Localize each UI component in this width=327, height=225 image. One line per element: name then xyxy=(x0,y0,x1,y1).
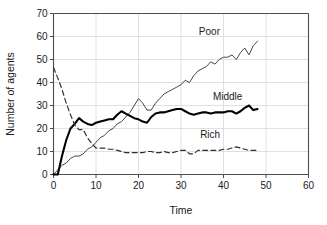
series-label-rich: Rich xyxy=(200,129,220,140)
x-tick-label: 50 xyxy=(260,180,272,191)
x-tick-label: 0 xyxy=(51,180,57,191)
y-tick-label: 10 xyxy=(36,146,48,157)
y-tick-label: 30 xyxy=(36,100,48,111)
data-series xyxy=(54,41,258,174)
y-tick-label: 40 xyxy=(36,77,48,88)
x-tick-label: 40 xyxy=(218,180,230,191)
x-tick-label: 30 xyxy=(175,180,187,191)
x-tick-label: 10 xyxy=(90,180,102,191)
chart-container: 0102030405060 010203040506070 PoorMiddle… xyxy=(0,0,327,225)
series-label-poor: Poor xyxy=(199,26,221,37)
y-tick-label: 70 xyxy=(36,8,48,19)
tick-marks xyxy=(50,14,309,179)
line-chart: 0102030405060 010203040506070 PoorMiddle… xyxy=(0,0,327,225)
x-tick-labels: 0102030405060 xyxy=(51,180,315,191)
series-annotations: PoorMiddleRich xyxy=(199,26,243,139)
y-tick-label: 20 xyxy=(36,123,48,134)
series-line-poor xyxy=(54,41,258,174)
x-axis-title: Time xyxy=(170,204,193,216)
x-tick-label: 20 xyxy=(133,180,145,191)
y-axis-title: Number of agents xyxy=(4,52,16,135)
x-tick-label: 60 xyxy=(303,180,315,191)
series-line-middle xyxy=(54,106,258,175)
y-tick-labels: 010203040506070 xyxy=(36,8,48,180)
y-tick-label: 60 xyxy=(36,31,48,42)
y-tick-label: 50 xyxy=(36,54,48,65)
series-label-middle: Middle xyxy=(213,91,243,102)
y-tick-label: 0 xyxy=(42,169,48,180)
